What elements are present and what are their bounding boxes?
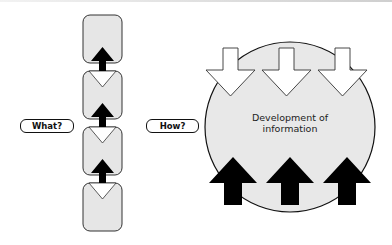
- circle-title-line-1: Development of: [238, 112, 342, 123]
- circle-title: Development of information: [238, 112, 342, 134]
- box-stack: [83, 15, 122, 231]
- what-label: What?: [20, 119, 74, 133]
- how-label: How?: [146, 119, 199, 133]
- circle-title-line-2: information: [238, 123, 342, 134]
